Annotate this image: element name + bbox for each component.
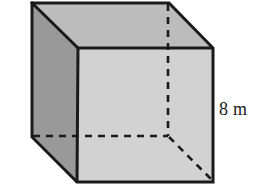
edge-front-left-vertical (77, 47, 78, 183)
height-dimension-label: 8 m (219, 100, 247, 118)
cube-figure: 8 m (0, 0, 260, 193)
front-face (77, 48, 213, 182)
cube-drawing (0, 0, 260, 193)
